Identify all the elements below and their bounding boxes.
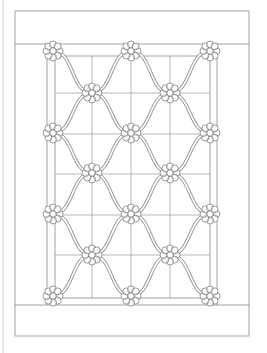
flower-center (207, 293, 213, 299)
flower-icon (43, 123, 63, 143)
flower-center (89, 90, 95, 96)
flower-icon (43, 286, 63, 306)
flower-icon (121, 204, 141, 224)
flower-icon (121, 41, 141, 61)
flower-center (128, 293, 134, 299)
flower-center (207, 211, 213, 217)
flower-center (207, 130, 213, 136)
flower-center (128, 48, 134, 54)
flower-center (207, 48, 213, 54)
flower-icon (82, 245, 102, 265)
flower-icon (43, 41, 63, 61)
flower-icon (200, 41, 220, 61)
flower-blocks (43, 41, 220, 306)
flower-center (128, 130, 134, 136)
flower-center (50, 293, 56, 299)
flower-icon (160, 83, 180, 103)
flower-center (167, 90, 173, 96)
vine-stems (53, 51, 210, 296)
flower-icon (82, 163, 102, 183)
flower-icon (121, 286, 141, 306)
flower-icon (43, 204, 63, 224)
flower-icon (200, 286, 220, 306)
flower-icon (200, 204, 220, 224)
flower-icon (121, 123, 141, 143)
flower-center (50, 130, 56, 136)
flower-icon (160, 163, 180, 183)
flower-icon (82, 83, 102, 103)
flower-center (50, 48, 56, 54)
flower-icon (200, 123, 220, 143)
flower-icon (160, 245, 180, 265)
quilt-diagram (0, 0, 267, 353)
flower-center (128, 211, 134, 217)
flower-center (167, 170, 173, 176)
flower-center (89, 170, 95, 176)
flower-center (50, 211, 56, 217)
flower-center (167, 252, 173, 258)
flower-center (89, 252, 95, 258)
